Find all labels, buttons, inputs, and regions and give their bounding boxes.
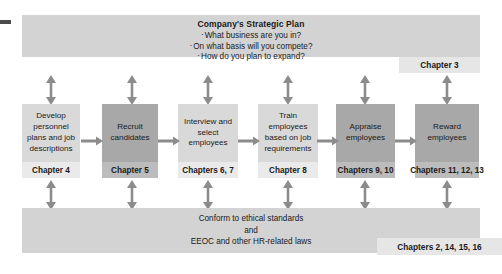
arrow-vertical-bottom-4 — [282, 180, 294, 210]
process-step-body: Appraiseemployees — [336, 104, 395, 162]
arrow-vertical-top-6 — [441, 75, 453, 105]
process-step-body: Recruitcandidates — [102, 104, 158, 162]
arrow-vertical-bottom-5 — [359, 180, 371, 210]
process-step-develop-personnel-plans[interactable]: Developpersonnelplans and jobdescription… — [22, 104, 80, 178]
arrow-flow-5 — [395, 135, 417, 147]
process-step-chapter: Chapters 6, 7 — [178, 162, 238, 178]
bullet-text: How do you plan to expand? — [201, 52, 305, 61]
diagram-canvas: Company's Strategic Plan ·What business … — [0, 0, 502, 274]
arrow-flow-2 — [158, 135, 180, 147]
compliance-line-1: Conform to ethical standards — [22, 213, 480, 225]
bullet-dot-icon: · — [190, 41, 193, 52]
arrow-vertical-top-1 — [45, 75, 57, 105]
process-step-interview-and-select[interactable]: Interview andselectemployees Chapters 6,… — [178, 104, 238, 178]
process-step-label: Interview andselectemployees — [184, 117, 232, 149]
process-step-chapter: Chapters 11, 12, 13 — [415, 162, 479, 178]
process-step-label: Appraiseemployees — [346, 122, 385, 144]
process-step-chapter: Chapters 9, 10 — [336, 162, 395, 178]
bullet-dot-icon: · — [197, 51, 200, 62]
page-edge-mark — [0, 20, 11, 24]
strategic-plan-bullet-1: ·What business are you in? — [22, 31, 480, 42]
arrow-vertical-bottom-3 — [202, 180, 214, 210]
process-step-appraise-employees[interactable]: Appraiseemployees Chapters 9, 10 — [336, 104, 395, 178]
process-step-body: Rewardemployees — [415, 104, 479, 162]
compliance-line-2: and — [22, 225, 480, 237]
bullet-text: What business are you in? — [205, 31, 301, 40]
process-step-chapter: Chapter 5 — [102, 162, 158, 178]
process-step-body: Developpersonnelplans and jobdescription… — [22, 104, 80, 162]
bullet-text: On what basis will you compete? — [193, 42, 312, 51]
process-step-recruit-candidates[interactable]: Recruitcandidates Chapter 5 — [102, 104, 158, 178]
process-step-label: Developpersonnelplans and jobdescription… — [27, 111, 75, 154]
process-step-label: Trainemployeesbased on jobrequirements — [264, 111, 311, 154]
arrow-flow-1 — [81, 135, 103, 147]
process-step-body: Trainemployeesbased on jobrequirements — [258, 104, 318, 162]
process-step-chapter: Chapter 8 — [258, 162, 318, 178]
process-step-chapter: Chapter 4 — [22, 162, 80, 178]
strategic-plan-chapter-label: Chapter 3 — [399, 57, 480, 73]
process-step-label: Recruitcandidates — [110, 122, 149, 144]
arrow-vertical-top-5 — [359, 75, 371, 105]
arrow-vertical-top-3 — [202, 75, 214, 105]
arrow-flow-3 — [238, 135, 260, 147]
process-step-label: Rewardemployees — [427, 122, 466, 144]
arrow-vertical-bottom-1 — [45, 180, 57, 210]
arrow-vertical-top-4 — [282, 75, 294, 105]
arrow-vertical-top-2 — [126, 75, 138, 105]
arrow-vertical-bottom-2 — [126, 180, 138, 210]
bullet-dot-icon: · — [201, 30, 204, 41]
arrow-vertical-bottom-6 — [441, 180, 453, 210]
compliance-chapter-label: Chapters 2, 14, 15, 16 — [377, 238, 502, 255]
strategic-plan-band: Company's Strategic Plan ·What business … — [22, 15, 480, 57]
strategic-plan-title: Company's Strategic Plan — [22, 19, 480, 30]
strategic-plan-bullet-2: ·On what basis will you compete? — [22, 42, 480, 53]
arrow-flow-4 — [317, 135, 339, 147]
process-step-body: Interview andselectemployees — [178, 104, 238, 162]
process-step-train-employees[interactable]: Trainemployeesbased on jobrequirements C… — [258, 104, 318, 178]
process-step-reward-employees[interactable]: Rewardemployees Chapters 11, 12, 13 — [415, 104, 479, 178]
